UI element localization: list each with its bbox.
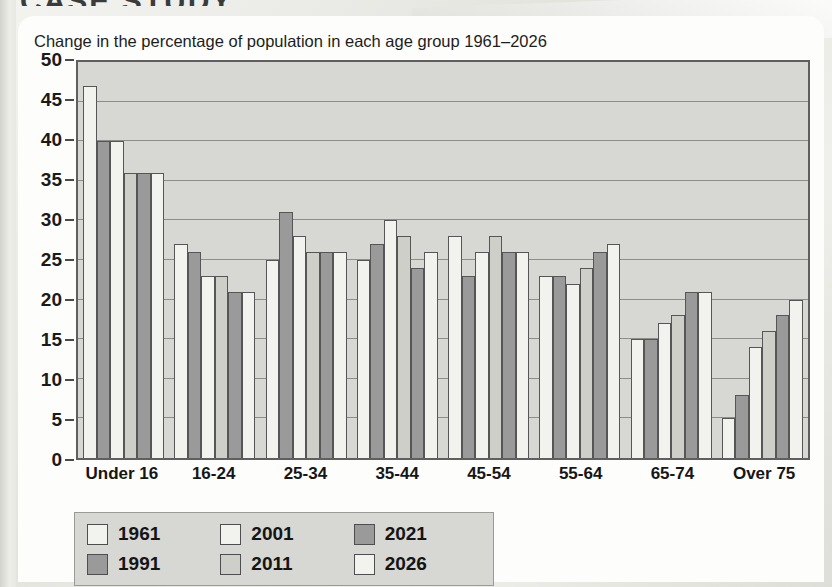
page-left-edge (0, 0, 16, 587)
bar (97, 141, 111, 458)
bar (671, 315, 685, 458)
bar (188, 252, 202, 458)
legend-label: 2026 (385, 553, 427, 575)
bar (776, 315, 790, 458)
plot-area (76, 60, 810, 460)
bar-group (717, 62, 808, 458)
y-axis-tick-label: 0 (51, 449, 62, 471)
legend-swatch (87, 524, 108, 545)
y-axis-tick-mark (65, 299, 74, 301)
bar-group (78, 62, 169, 458)
legend-swatch (87, 554, 108, 575)
y-axis-tick-mark (65, 59, 74, 61)
y-axis-tick-label: 5 (51, 409, 62, 431)
legend-label: 1991 (118, 553, 160, 575)
legend-swatch (354, 554, 375, 575)
bar (306, 252, 320, 458)
x-axis-tick-label: 45-54 (443, 464, 535, 484)
y-axis-tick-mark (65, 459, 74, 461)
bar (749, 347, 763, 458)
bar (266, 260, 280, 458)
bar (735, 395, 749, 458)
legend-swatch (354, 524, 375, 545)
bar-group (352, 62, 443, 458)
y-axis-tick-mark (65, 339, 74, 341)
bar (83, 86, 97, 458)
y-axis-tick-label: 35 (41, 169, 62, 191)
legend-item: 2026 (354, 553, 481, 575)
bar (502, 252, 516, 458)
bar (462, 276, 476, 458)
bar (201, 276, 215, 458)
bar (124, 173, 138, 458)
bar (762, 331, 776, 458)
x-axis-tick-label: Over 75 (718, 464, 810, 484)
bar (566, 284, 580, 458)
bar (631, 339, 645, 458)
bar (658, 323, 672, 458)
y-axis-tick-label: 15 (41, 329, 62, 351)
legend-item: 2011 (220, 553, 347, 575)
y-axis-tick-label: 10 (41, 369, 62, 391)
legend-swatch (220, 554, 241, 575)
bar (370, 244, 384, 458)
bar (553, 276, 567, 458)
x-axis: Under 1616-2425-3435-4445-5455-6465-74Ov… (76, 464, 810, 484)
y-axis-tick-label: 40 (41, 129, 62, 151)
bar (411, 268, 425, 458)
bar (722, 418, 736, 458)
y-axis-tick-label: 45 (41, 89, 62, 111)
y-axis-tick-mark (65, 179, 74, 181)
legend-label: 2001 (251, 523, 293, 545)
bar (593, 252, 607, 458)
y-axis: 05101520253035404550 (18, 60, 76, 460)
bar (228, 292, 242, 458)
bar (516, 252, 530, 458)
x-axis-tick-label: 65-74 (627, 464, 719, 484)
bar (685, 292, 699, 458)
y-axis-tick-mark (65, 419, 74, 421)
y-axis-tick-mark (65, 139, 74, 141)
y-axis-tick-mark (65, 99, 74, 101)
chart-card: Change in the percentage of population i… (18, 16, 824, 582)
bar (580, 268, 594, 458)
bar (215, 276, 229, 458)
legend-label: 1961 (118, 523, 160, 545)
legend-label: 2021 (385, 523, 427, 545)
bar (397, 236, 411, 458)
bar-group (443, 62, 534, 458)
bar (137, 173, 151, 458)
y-axis-tick-mark (65, 219, 74, 221)
bar (789, 300, 803, 458)
y-axis-tick-label: 30 (41, 209, 62, 231)
bar (698, 292, 712, 458)
chart-title: Change in the percentage of population i… (34, 32, 547, 51)
y-axis-tick-label: 50 (41, 49, 62, 71)
bar (320, 252, 334, 458)
y-axis-tick-label: 25 (41, 249, 62, 271)
legend-item: 2001 (220, 523, 347, 545)
x-axis-tick-label: 35-44 (351, 464, 443, 484)
bar (475, 252, 489, 458)
plot-wrapper: 05101520253035404550 Under 1616-2425-343… (18, 60, 824, 490)
bar (174, 244, 188, 458)
legend-item: 1991 (87, 553, 214, 575)
bar-group (261, 62, 352, 458)
y-axis-tick-mark (65, 259, 74, 261)
y-axis-tick-mark (65, 379, 74, 381)
y-axis-tick-label: 20 (41, 289, 62, 311)
x-axis-tick-label: 55-64 (535, 464, 627, 484)
bar-group (534, 62, 625, 458)
bar (357, 260, 371, 458)
bar (607, 244, 621, 458)
bar (489, 236, 503, 458)
bar (539, 276, 553, 458)
bar (448, 236, 462, 458)
bar (151, 173, 165, 458)
bar-group (626, 62, 717, 458)
legend-swatch (220, 524, 241, 545)
chart-legend: 196119912001201120212026 (74, 512, 494, 586)
x-axis-tick-label: 16-24 (168, 464, 260, 484)
bar (242, 292, 256, 458)
legend-label: 2011 (251, 553, 292, 575)
